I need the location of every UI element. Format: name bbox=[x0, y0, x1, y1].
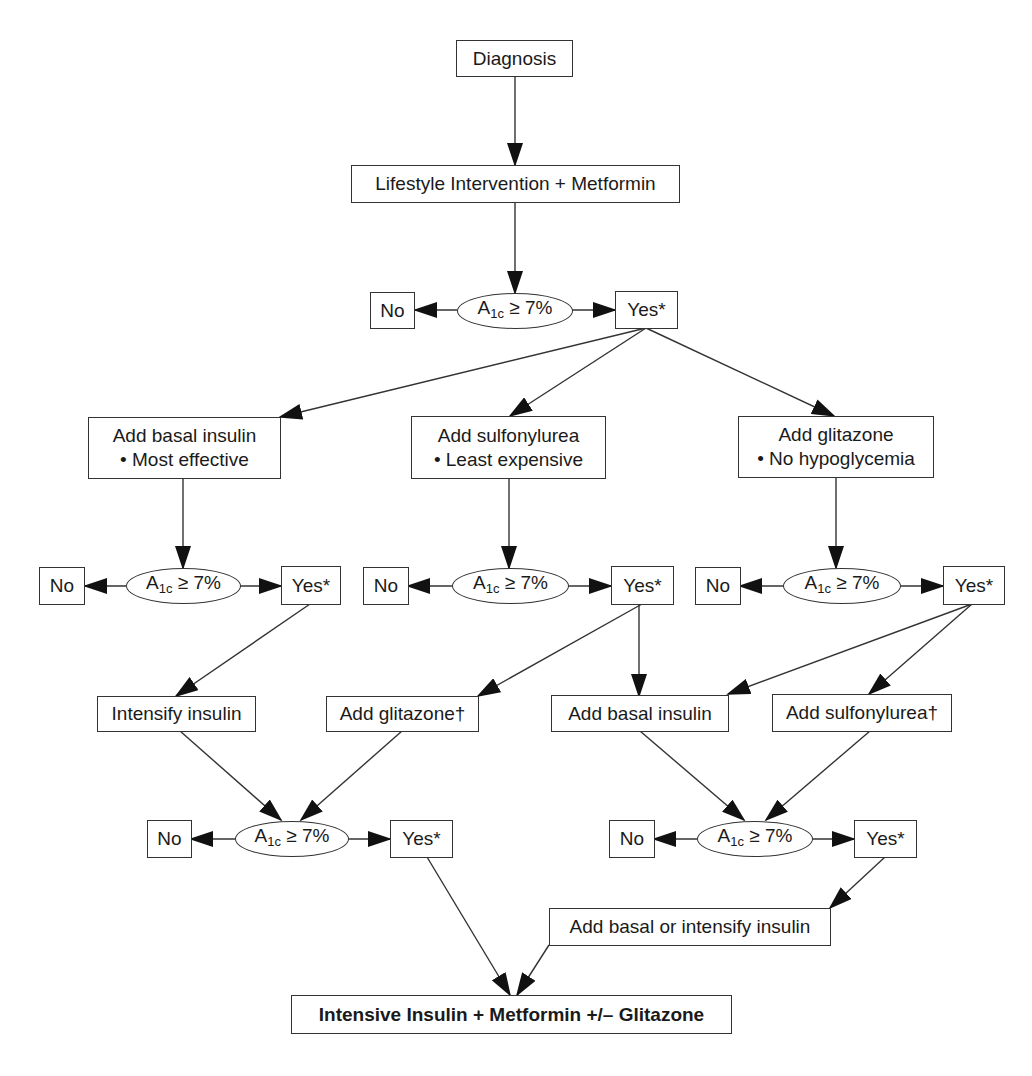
add-sulfonylurea-dagger-box: Add sulfonylurea† bbox=[772, 694, 952, 732]
yes-box-2a: Yes* bbox=[281, 566, 341, 605]
no-box-2a: No bbox=[39, 567, 85, 605]
add-basal-insulin-box: Add basal insulin bbox=[551, 695, 729, 732]
arrow-yes2a-to-intensify bbox=[176, 604, 310, 696]
a1c-decision-1: A1c ≥ 7% bbox=[457, 293, 573, 329]
arrow-yes4b-to-add-basal-or-intensify bbox=[830, 857, 885, 908]
connector-layer bbox=[0, 0, 1032, 1076]
arrow-yes2b-to-add-glitazone bbox=[478, 604, 642, 696]
a1c-decision-4a: A1c ≥ 7% bbox=[235, 821, 349, 857]
no-box-4b: No bbox=[609, 820, 655, 858]
no-box-2c: No bbox=[695, 567, 741, 605]
arrow-yes2c-to-add-sulfonylurea bbox=[869, 604, 972, 694]
yes-box-4b: Yes* bbox=[854, 820, 917, 858]
arrow-yes1-to-sulfonylurea bbox=[510, 328, 646, 416]
option-sulfonylurea-box: Add sulfonylurea • Least expensive bbox=[411, 416, 606, 479]
no-box-2b: No bbox=[363, 567, 409, 605]
yes-box-2b: Yes* bbox=[611, 566, 674, 605]
a1c-decision-2b: A1c ≥ 7% bbox=[452, 568, 569, 604]
intensify-insulin-box: Intensify insulin bbox=[97, 696, 256, 732]
a1c-decision-2a: A1c ≥ 7% bbox=[126, 568, 241, 604]
final-intensive-insulin-box: Intensive Insulin + Metformin +/– Glitaz… bbox=[291, 995, 732, 1034]
a1c-decision-4b: A1c ≥ 7% bbox=[697, 821, 813, 857]
yes-box-4a: Yes* bbox=[390, 820, 453, 858]
arrow-yes1-to-basal bbox=[280, 328, 646, 417]
no-box-1: No bbox=[370, 292, 415, 329]
arrow-add-basal-or-intensify-to-final bbox=[517, 945, 549, 995]
arrow-yes4a-to-final bbox=[427, 857, 510, 995]
lifestyle-label: Lifestyle Intervention + Metformin bbox=[375, 172, 655, 196]
a1c-decision-2c: A1c ≥ 7% bbox=[783, 568, 901, 604]
diagnosis-box: Diagnosis bbox=[456, 40, 573, 77]
lifestyle-metformin-box: Lifestyle Intervention + Metformin bbox=[351, 165, 680, 203]
option-basal-insulin-box: Add basal insulin • Most effective bbox=[88, 417, 281, 479]
arrow-yes1-to-glitazone bbox=[646, 328, 834, 416]
no-box-4a: No bbox=[147, 820, 192, 858]
yes-box-2c: Yes* bbox=[943, 566, 1005, 605]
diagnosis-label: Diagnosis bbox=[473, 47, 556, 71]
arrow-yes2c-to-add-basal bbox=[728, 604, 972, 694]
add-basal-or-intensify-box: Add basal or intensify insulin bbox=[549, 908, 831, 946]
option-glitazone-box: Add glitazone • No hypoglycemia bbox=[738, 416, 934, 478]
yes-box-1: Yes* bbox=[615, 291, 678, 329]
add-glitazone-dagger-box: Add glitazone† bbox=[326, 696, 479, 732]
